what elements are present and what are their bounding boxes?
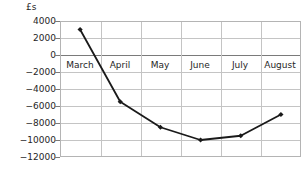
- series-line: [80, 30, 281, 141]
- series-markers: [77, 27, 283, 143]
- data-point-june: [198, 137, 203, 142]
- line-chart: £s 4000 2000 0 −2000 −4000 −6000 −8000 −…: [0, 0, 307, 180]
- data-series-layer: [0, 0, 307, 180]
